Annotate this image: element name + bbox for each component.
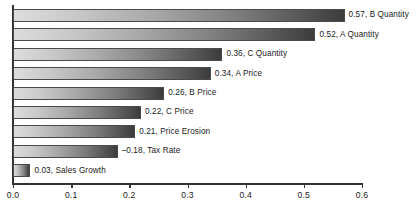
sensitivity-tornado-chart: 0.57, B Quantity0.52, A Quantity0.36, C …	[0, 0, 419, 211]
x-axis-tick-mark	[13, 184, 14, 188]
x-axis-tick-label: 0.3	[181, 190, 194, 200]
x-axis-tick-mark	[71, 184, 72, 188]
bar-row: 0.34, A Price	[13, 67, 262, 80]
bar-row: 0.22, C Price	[13, 106, 194, 119]
x-axis-tick-mark	[129, 184, 130, 188]
bar-row: 0.52, A Quantity	[13, 28, 379, 41]
bar	[13, 145, 118, 158]
bar	[13, 67, 211, 80]
bar-row: 0.26, B Price	[13, 87, 216, 100]
x-axis-tick-mark	[362, 184, 363, 188]
x-axis-tick-label: 0.0	[7, 190, 20, 200]
bar	[13, 125, 135, 138]
x-axis-tick-label: 0.5	[298, 190, 311, 200]
x-axis-tick-label: 0.2	[123, 190, 136, 200]
bar-row: 0.03, Sales Growth	[13, 164, 106, 177]
bar	[13, 106, 141, 119]
bar-value-label: 0.22, C Price	[145, 108, 194, 116]
bar-value-label: 0.26, B Price	[168, 89, 216, 97]
x-axis-tick-mark	[246, 184, 247, 188]
plot-area: 0.57, B Quantity0.52, A Quantity0.36, C …	[0, 0, 419, 211]
x-axis-tick-mark	[304, 184, 305, 188]
bar-row: 0.21, Price Erosion	[13, 125, 210, 138]
bar-row: –0.18, Tax Rate	[13, 145, 180, 158]
x-axis-tick-label: 0.6	[356, 190, 369, 200]
bar-row: 0.57, B Quantity	[13, 9, 409, 22]
bar	[13, 48, 222, 61]
bar-value-label: –0.18, Tax Rate	[122, 147, 181, 155]
bar-value-label: 0.36, C Quantity	[226, 50, 287, 58]
x-axis-tick-label: 0.4	[239, 190, 252, 200]
bar-value-label: 0.57, B Quantity	[349, 11, 409, 19]
bar-value-label: 0.21, Price Erosion	[139, 128, 210, 136]
x-axis-tick-mark	[188, 184, 189, 188]
x-axis-tick-label: 0.1	[65, 190, 78, 200]
bar	[13, 164, 30, 177]
bar-value-label: 0.52, A Quantity	[319, 31, 378, 39]
bar	[13, 28, 315, 41]
bar-value-label: 0.34, A Price	[215, 70, 262, 78]
bar	[13, 87, 164, 100]
bar	[13, 9, 345, 22]
bar-value-label: 0.03, Sales Growth	[34, 167, 105, 175]
bar-row: 0.36, C Quantity	[13, 48, 287, 61]
